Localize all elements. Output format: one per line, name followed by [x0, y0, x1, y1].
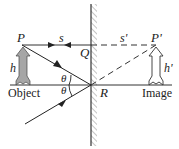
ray-arrowhead-icon — [58, 100, 66, 107]
object-arrow — [16, 47, 30, 85]
plane-mirror-diagram: P s Q s' P' h h' θ θ R Object Image — [0, 0, 179, 149]
label-h-prime: h' — [164, 61, 173, 75]
label-s: s — [59, 31, 64, 45]
angle-arc-reflected — [69, 85, 72, 96]
label-P-prime: P' — [150, 30, 162, 45]
label-P: P — [16, 30, 25, 45]
ray-arrowhead-icon — [53, 60, 62, 68]
label-s-prime: s' — [120, 31, 128, 45]
label-theta-reflected: θ — [61, 84, 67, 96]
virtual-ray — [91, 45, 156, 85]
label-R: R — [99, 85, 108, 100]
object-caption: Object — [8, 86, 41, 100]
label-Q: Q — [80, 45, 90, 60]
image-arrow — [149, 47, 163, 85]
angle-arc-incident — [69, 75, 71, 85]
label-theta-incident: θ — [61, 72, 67, 84]
plane-mirror — [91, 4, 97, 146]
arrowhead-left-icon — [48, 42, 55, 48]
arrowhead-right-icon — [64, 42, 71, 48]
image-caption: Image — [142, 86, 172, 100]
label-h: h — [10, 61, 16, 75]
